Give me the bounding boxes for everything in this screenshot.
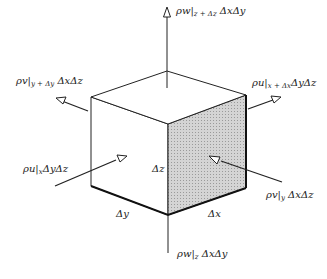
flux-left-back-tail: ΔxΔz [57, 75, 82, 86]
flux-bottom-tail: ΔxΔy [202, 248, 228, 259]
flux-top-tail: ΔxΔy [220, 5, 246, 16]
diagram-canvas: ρw|z + Δz ΔxΔy ρv|y + Δy ΔxΔz ρu|x + ΔxΔ… [0, 0, 327, 279]
label-flux-left-back: ρv|y + Δy ΔxΔz [16, 76, 83, 88]
flux-top-main: ρw [176, 5, 190, 16]
flux-left-back-sub: y + Δy [31, 80, 54, 88]
label-flux-left-front: ρu|xΔyΔz [23, 164, 68, 176]
flux-right-back-tail: ΔyΔz [291, 77, 316, 88]
arrow-right-back [248, 96, 281, 109]
flux-right-front-main: ρv [266, 189, 278, 200]
flux-right-back-main: ρu [252, 77, 264, 88]
flux-right-front-sub: y [281, 194, 285, 202]
flux-top-sub: z + Δz [194, 10, 217, 18]
label-flux-right-front: ρv|y ΔxΔz [266, 190, 313, 202]
flux-bottom-sub: z [195, 253, 199, 261]
label-flux-top: ρw|z + Δz ΔxΔy [176, 6, 246, 18]
label-dimension-dx: Δx [208, 209, 221, 219]
cube-diagram [0, 0, 327, 279]
label-flux-bottom: ρw|z ΔxΔy [177, 249, 227, 261]
label-dimension-dz: Δz [152, 164, 165, 174]
flux-bottom-main: ρw [177, 248, 191, 259]
flux-left-back-main: ρv [16, 75, 28, 86]
flux-left-front-main: ρu [23, 163, 35, 174]
flux-right-back-sub: x + Δx [268, 82, 291, 90]
label-dimension-dy: Δy [116, 209, 129, 219]
flux-left-front-tail: ΔyΔz [43, 163, 68, 174]
label-flux-right-back: ρu|x + ΔxΔyΔz [252, 78, 316, 90]
flux-right-front-tail: ΔxΔz [288, 189, 313, 200]
arrow-left-back [56, 97, 88, 111]
